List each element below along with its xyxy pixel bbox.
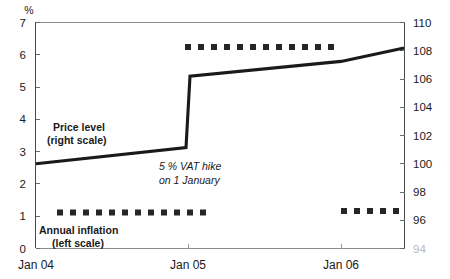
x-tick-label-jan-06: Jan 06 (323, 258, 359, 272)
price-level-label-line-2: (right scale) (47, 134, 107, 146)
inflation-marker (224, 44, 230, 50)
right-tick-label-100: 100 (413, 158, 432, 170)
inflation-marker (341, 208, 347, 214)
inflation-marker (237, 44, 243, 50)
x-tick-label-jan-05: Jan 05 (170, 258, 206, 272)
series-price-level (36, 48, 404, 164)
left-tick-label-7: 7 (20, 17, 26, 29)
inflation-marker (148, 210, 154, 216)
inflation-marker (200, 210, 206, 216)
right-tick-label-96: 96 (413, 214, 426, 226)
inflation-marker (211, 44, 217, 50)
x-tick-label-jan-04: Jan 04 (18, 258, 54, 272)
inflation-marker (109, 210, 115, 216)
inflation-marker (135, 210, 141, 216)
right-tick-label-106: 106 (413, 73, 432, 85)
right-tick-label-102: 102 (413, 130, 432, 142)
inflation-marker (393, 208, 399, 214)
left-tick-label-1: 1 (20, 210, 26, 222)
left-tick-label-5: 5 (20, 81, 26, 93)
left-tick-label-2: 2 (20, 178, 26, 190)
inflation-marker (83, 210, 89, 216)
inflation-marker (198, 44, 204, 50)
right-tick-label-110: 110 (413, 17, 431, 29)
left-tick-label-3: 3 (20, 146, 26, 158)
vat-hike-note-line-1: 5 % VAT hike (159, 160, 221, 172)
vat-hike-note: 5 % VAT hike on 1 January (159, 160, 221, 186)
vat-hike-note-line-2: on 1 January (159, 174, 220, 186)
inflation-marker (250, 44, 256, 50)
annual-inflation-label-line-1: Annual inflation (39, 224, 118, 236)
inflation-marker (70, 210, 76, 216)
inflation-marker (315, 44, 321, 50)
inflation-marker (354, 208, 360, 214)
inflation-marker (187, 210, 193, 216)
inflation-marker (380, 208, 386, 214)
inflation-marker (367, 208, 373, 214)
left-tick-label-4: 4 (20, 113, 27, 125)
left-tick-label-0: 0 (20, 243, 26, 255)
inflation-marker (57, 210, 63, 216)
inflation-marker (161, 210, 167, 216)
series-annual-inflation (57, 44, 399, 216)
price-level-inflation-chart: % 0 1 2 3 4 5 6 7 (0, 0, 450, 279)
inflation-marker (276, 44, 282, 50)
annual-inflation-label-line-2: (left scale) (52, 237, 104, 249)
inflation-marker (96, 210, 102, 216)
left-tick-label-6: 6 (20, 49, 26, 61)
inflation-marker (289, 44, 295, 50)
price-level-label-line-1: Price level (53, 121, 105, 133)
annual-inflation-label: Annual inflation (left scale) (39, 224, 118, 249)
inflation-marker (302, 44, 308, 50)
price-level-line (36, 48, 404, 164)
inflation-marker (185, 44, 191, 50)
right-tick-label-94: 94 (413, 243, 426, 255)
right-tick-label-108: 108 (413, 45, 432, 57)
inflation-marker (328, 44, 334, 50)
inflation-marker (263, 44, 269, 50)
inflation-marker (122, 210, 128, 216)
left-axis-unit-label: % (24, 4, 33, 16)
inflation-marker (174, 210, 180, 216)
price-level-label: Price level (right scale) (47, 121, 107, 146)
left-axis-ticks: 0 1 2 3 4 5 6 7 (20, 17, 40, 255)
right-tick-label-104: 104 (413, 101, 433, 113)
chart-figure: % 0 1 2 3 4 5 6 7 (0, 0, 450, 279)
right-tick-label-98: 98 (413, 186, 426, 198)
